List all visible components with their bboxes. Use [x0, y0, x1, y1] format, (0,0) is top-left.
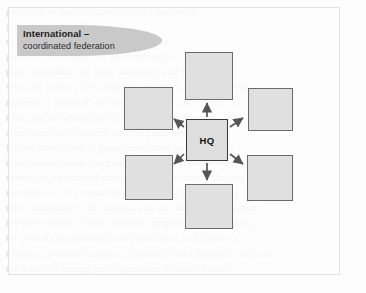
arrow-hq-to-top-right [230, 118, 243, 127]
arrow-hq-to-bottom-right [230, 154, 243, 164]
arrow-hq-to-top-left [174, 119, 184, 127]
node-bottom-left[interactable] [125, 155, 173, 200]
federation-diagram: International – coordinated federation [0, 0, 366, 293]
diagram-subtitle: coordinated federation [23, 40, 163, 52]
node-top-left[interactable] [124, 87, 173, 130]
node-bottom-right[interactable] [247, 155, 293, 201]
node-bottom[interactable] [185, 184, 233, 229]
diagram-title-banner-text: International – coordinated federation [23, 27, 163, 52]
node-top[interactable] [185, 52, 233, 100]
node-headquarters-label: HQ [200, 135, 215, 146]
figure-root: palatable as they are tangible; and perh… [0, 0, 366, 293]
node-headquarters[interactable]: HQ [186, 119, 228, 161]
arrow-hq-to-bottom-left [174, 154, 184, 164]
diagram-title-banner: International – coordinated federation [17, 25, 162, 56]
diagram-title: International – [23, 27, 163, 40]
node-top-right[interactable] [248, 88, 293, 131]
